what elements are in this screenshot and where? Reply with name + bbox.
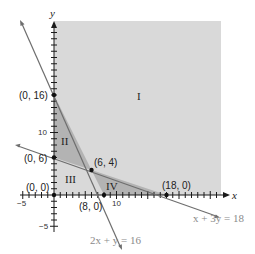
region-label-i: I (137, 90, 141, 102)
label-point-8-0: (8, 0) (79, 201, 102, 212)
graph-canvas: y x (0, 16) (0, 6) (6, 4) (0, 0) (8, 0) … (0, 0, 255, 254)
tick-label-y-10: 10 (38, 128, 47, 137)
x-axis-arrow-icon (223, 192, 230, 198)
point-0-16 (52, 93, 56, 97)
point-8-0 (102, 193, 106, 197)
tick-label-y-neg5: −5 (39, 222, 49, 231)
region-light-background (54, 21, 221, 195)
region-label-iv: IV (106, 180, 118, 192)
x-axis-label: x (231, 189, 237, 201)
tick-label-x-neg5: −5 (17, 199, 27, 208)
region-label-iii: III (65, 173, 76, 185)
label-point-6-4: (6, 4) (94, 157, 117, 168)
label-point-0-6: (0, 6) (24, 153, 47, 164)
equation-label-line1: 2x + y = 16 (90, 234, 141, 246)
y-axis-label: y (49, 7, 55, 19)
point-0-6 (52, 155, 56, 159)
label-point-0-16: (0, 16) (19, 90, 48, 101)
tick-label-x-10: 10 (112, 199, 121, 208)
point-0-0 (52, 193, 56, 197)
equation-label-line2: x + 3y = 18 (193, 212, 244, 224)
label-point-0-0: (0, 0) (26, 182, 49, 193)
point-6-4 (89, 168, 93, 172)
label-point-18-0: (18, 0) (162, 180, 191, 191)
point-18-0 (164, 193, 168, 197)
region-label-ii: II (61, 135, 69, 147)
line1-arrow-top-icon (20, 20, 25, 26)
